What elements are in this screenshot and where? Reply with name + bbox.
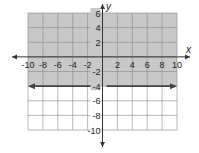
- x-tick-label: -4: [69, 60, 77, 70]
- y-tick-label: -10: [87, 126, 100, 136]
- y-axis-down-arrow-icon: [100, 142, 105, 147]
- x-tick-label: -10: [21, 60, 34, 70]
- x-axis-right-arrow-icon: [185, 54, 190, 59]
- x-tick-label: 10: [172, 60, 182, 70]
- y-tick-label: -8: [92, 111, 100, 121]
- y-tick-label: 4: [95, 23, 100, 33]
- y-tick-label: 6: [95, 9, 100, 19]
- y-tick-label: -4: [92, 82, 100, 92]
- x-tick-label: 8: [160, 60, 165, 70]
- y-tick-label: -6: [92, 96, 100, 106]
- coordinate-plane-chart: -10-8-6-4-2246810642-2-4-6-8-10 x y: [0, 0, 199, 153]
- x-tick-label: 4: [130, 60, 135, 70]
- x-tick-label: 2: [115, 60, 120, 70]
- y-tick-label: 2: [95, 38, 100, 48]
- x-tick-label: -2: [84, 60, 92, 70]
- x-axis-left-arrow-icon: [12, 54, 17, 59]
- y-tick-label: -2: [92, 67, 100, 77]
- x-tick-label: -8: [39, 60, 47, 70]
- x-tick-label: -6: [54, 60, 62, 70]
- y-axis-up-arrow-icon: [100, 4, 105, 9]
- x-axis-label: x: [185, 44, 192, 55]
- x-tick-label: 6: [145, 60, 150, 70]
- y-axis-label: y: [105, 1, 112, 12]
